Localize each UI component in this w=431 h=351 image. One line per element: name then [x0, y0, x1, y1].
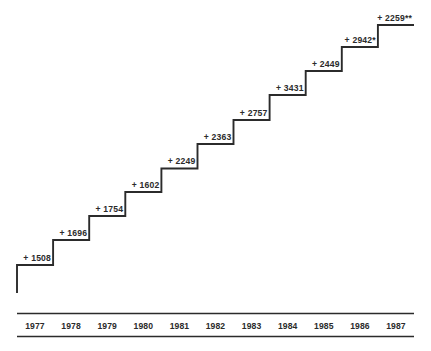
- x-axis-year-label: 1984: [278, 321, 298, 331]
- x-axis-year-label: 1987: [386, 321, 406, 331]
- x-axis-year-label: 1978: [61, 321, 81, 331]
- x-axis-year-label: 1986: [350, 321, 370, 331]
- x-axis-year-label: 1982: [206, 321, 226, 331]
- step-value-label: + 1696: [59, 228, 87, 238]
- x-axis-year-label: 1983: [242, 321, 262, 331]
- x-axis-year-label: 1979: [97, 321, 117, 331]
- step-value-label: + 2249: [168, 156, 196, 166]
- x-axis: 1977197819791980198119821983198419851986…: [17, 314, 414, 337]
- step-series: [17, 25, 414, 293]
- step-value-label: + 2259**: [377, 13, 412, 23]
- x-axis-year-label: 1980: [134, 321, 154, 331]
- step-chart: + 1508+ 1696+ 1754+ 1602+ 2249+ 2363+ 27…: [0, 0, 431, 351]
- x-axis-year-label: 1981: [170, 321, 190, 331]
- step-label-group: + 1508+ 1696+ 1754+ 1602+ 2249+ 2363+ 27…: [23, 13, 412, 263]
- step-value-label: + 3431: [276, 83, 304, 93]
- step-value-label: + 1508: [23, 253, 51, 263]
- x-axis-year-label: 1985: [314, 321, 334, 331]
- x-axis-year-label: 1977: [25, 321, 45, 331]
- step-value-label: + 1754: [96, 204, 124, 214]
- step-value-label: + 2449: [312, 59, 340, 69]
- step-value-label: + 2363: [204, 132, 232, 142]
- chart-canvas: + 1508+ 1696+ 1754+ 1602+ 2249+ 2363+ 27…: [0, 0, 431, 351]
- step-value-label: + 2942*: [345, 35, 377, 45]
- step-value-label: + 1602: [132, 180, 160, 190]
- step-value-label: + 2757: [240, 108, 268, 118]
- step-line: [17, 25, 414, 293]
- year-label-group: 1977197819791980198119821983198419851986…: [25, 321, 406, 331]
